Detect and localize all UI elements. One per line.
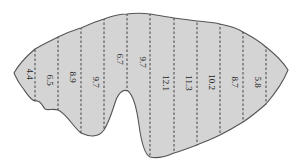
- strip-label-11: 5.8: [253, 76, 263, 88]
- strip-label-4: 9.7: [91, 76, 101, 88]
- strip-label-8: 11.3: [184, 75, 194, 91]
- strip-measurement-diagram: 4.4 6.5 8.9 9.7 6.7 9.7 12.1 11.3 10.2 8…: [0, 0, 299, 168]
- strip-label-1: 4.4: [25, 68, 35, 80]
- strip-label-7: 12.1: [161, 75, 171, 91]
- strip-label-2: 6.5: [45, 74, 55, 86]
- strip-label-3: 8.9: [68, 71, 78, 83]
- strip-label-6: 9.7: [138, 56, 148, 68]
- strip-label-5: 6.7: [115, 53, 125, 65]
- strip-label-10: 8.7: [230, 76, 240, 88]
- strip-label-9: 10.2: [207, 74, 217, 90]
